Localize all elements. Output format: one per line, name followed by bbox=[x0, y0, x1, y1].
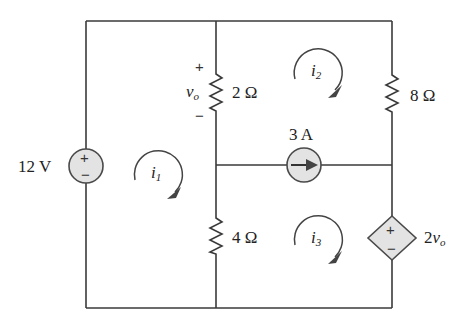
vo-label: vo bbox=[186, 82, 200, 102]
resistor-2ohm bbox=[210, 71, 222, 113]
current-source-label: 3 A bbox=[289, 125, 314, 144]
dependent-source-minus: − bbox=[387, 240, 396, 257]
voltage-source-12v: + − bbox=[69, 149, 103, 183]
mesh-i3-label: i3 bbox=[311, 228, 322, 248]
clockwise-arrow-icon bbox=[167, 187, 181, 199]
mesh-i1-label: i1 bbox=[151, 163, 161, 183]
clockwise-arrow-icon bbox=[328, 251, 342, 264]
resistor-8ohm-label: 8 Ω bbox=[410, 86, 435, 105]
voltage-source-minus: − bbox=[81, 166, 90, 183]
clockwise-arrow-icon bbox=[328, 85, 342, 98]
voltage-source-plus: + bbox=[80, 149, 89, 166]
dependent-source-label: 2vo bbox=[424, 228, 446, 248]
mesh-i2-label: i2 bbox=[311, 61, 322, 81]
vo-minus-sign: − bbox=[195, 107, 204, 124]
dependent-source-plus: + bbox=[386, 221, 395, 238]
vo-plus-sign: + bbox=[195, 58, 204, 75]
wires bbox=[86, 21, 392, 308]
current-source-3a bbox=[287, 148, 321, 182]
voltage-source-label: 12 V bbox=[18, 157, 52, 176]
circuit-diagram: 2 Ω + vo − 8 Ω 4 Ω + − 12 V 3 A + − 2vo … bbox=[0, 0, 465, 324]
mesh-current-i2: i2 bbox=[294, 49, 342, 98]
mesh-current-i3: i3 bbox=[294, 216, 342, 264]
resistor-4ohm bbox=[210, 216, 222, 256]
mesh-current-i1: i1 bbox=[134, 151, 182, 199]
resistor-8ohm bbox=[386, 72, 398, 114]
resistor-4ohm-label: 4 Ω bbox=[232, 228, 257, 247]
dependent-voltage-source: + − bbox=[368, 216, 416, 260]
resistor-2ohm-label: 2 Ω bbox=[232, 83, 257, 102]
